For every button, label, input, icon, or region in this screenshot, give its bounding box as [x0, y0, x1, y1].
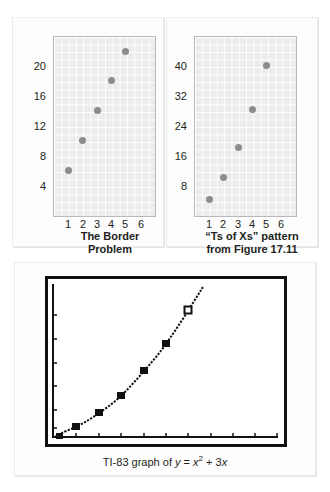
caption-var: x	[222, 456, 228, 468]
ti83-data-markers	[56, 340, 170, 439]
caption-text: =	[181, 456, 194, 468]
ti83-graph	[0, 0, 330, 492]
ti83-caption: TI-83 graph of y = x2 + 3x	[45, 454, 285, 468]
caption-text: + 3	[203, 456, 222, 468]
cursor-marker	[185, 307, 192, 314]
parabola-curve	[55, 287, 203, 437]
caption-text: TI-83 graph of	[103, 456, 175, 468]
